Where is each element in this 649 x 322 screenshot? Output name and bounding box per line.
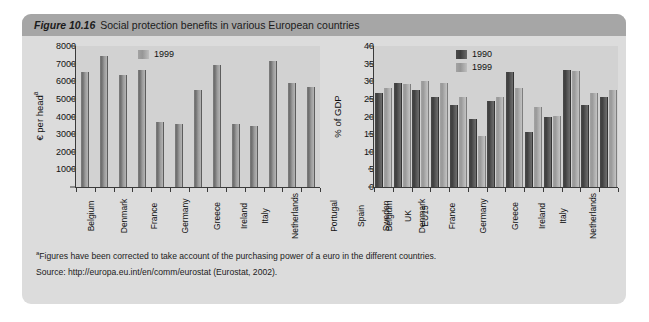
x-axis-label-text: Netherlands [290,193,300,239]
bar-ireland-1990 [469,119,477,187]
y-axis-tick-mark [70,151,75,152]
y-axis-label-left: € per heada [32,46,46,187]
x-axis-label-greece: Greece [501,193,529,243]
legend-swatch-icon [456,63,467,72]
legend-swatch-icon [138,50,149,59]
figure-card: Figure 10.16 Social protection benefits … [22,14,626,304]
footnotes: aFigures have been corrected to take acc… [36,250,616,277]
y-axis-tick-mark [70,46,75,47]
bar-spain-1999 [250,126,258,187]
y-axis-tick-mark [70,81,75,82]
bar-eu15-1999 [609,90,617,187]
x-axis-tick-mark [189,188,190,192]
y-axis-tick-mark [368,81,373,82]
legend-left: 1999 [138,49,174,62]
x-axis-label-text: Germany [478,199,488,234]
y-axis-tick-mark [70,116,75,117]
x-axis-tick-mark [449,188,450,192]
bars-area-right [374,46,618,187]
y-axis-label-right: % of GDP [330,46,344,187]
x-axis-tick-mark [170,188,171,192]
x-axis-label-france: France [141,193,167,243]
x-axis-label-text: Ireland [537,203,547,229]
y-axis-tick-mark [368,98,373,99]
x-axis-label-text: Greece [212,202,222,230]
x-axis-label-text: France [447,203,457,229]
x-axis-tick-mark [374,188,375,192]
bar-group [412,46,429,187]
y-axis-tick-mark [368,116,373,117]
x-axis-tick-mark [95,188,96,192]
figure-title-bar: Figure 10.16 Social protection benefits … [22,14,626,36]
legend-label: 1999 [154,49,174,59]
bar-eu15-1990 [600,97,608,187]
y-axis-tick-mark [368,187,373,188]
x-axis-tick-mark [562,188,563,192]
legend-item-1999: 1999 [456,62,492,72]
x-axis-label-text: Netherlands [588,193,598,239]
x-axis-tick-mark [505,188,506,192]
bar-belgium-1999 [384,88,392,187]
x-axis-tick-mark [580,188,581,192]
bar-group [506,46,523,187]
bar-germany-1990 [431,97,439,187]
x-axis-label-denmark: Denmark [107,193,141,243]
figure-number: Figure 10.16 [34,19,95,31]
bar-group [375,46,392,187]
bar-group [394,46,411,187]
x-axis-label-text: Italy [259,208,269,224]
legend-item-1990: 1990 [456,49,492,59]
bar-group [194,46,202,187]
x-axis-label-ireland: Ireland [529,193,555,243]
y-axis-tick-mark [368,63,373,64]
bar-ireland-1999 [478,136,486,187]
x-axis-tick-mark [618,188,619,192]
x-axis-tick-mark [320,188,321,192]
bar-ireland-1999 [175,124,183,187]
bar-denmark-1999 [403,84,411,187]
x-axis-tick-mark [132,188,133,192]
bar-germany-1999 [138,70,146,187]
bar-france-1999 [421,81,429,187]
bar-germany-1999 [440,83,448,187]
bar-sweden-1999 [269,61,277,187]
y-axis-tick-mark [368,46,373,47]
bar-portugal-1999 [232,124,240,187]
x-axis-tick-mark [245,188,246,192]
bar-netherlands-1999 [213,65,221,187]
bar-group [269,46,277,187]
x-axis-tick-mark [412,188,413,192]
x-axis-label-text: Italy [557,208,567,224]
legend-item-1999: 1999 [138,49,174,59]
x-axis-label-text: Denmark [417,199,427,233]
x-axis-tick-mark [226,188,227,192]
x-axis-tick-mark [76,188,77,192]
x-axis-tick-mark [393,188,394,192]
x-axis-tick-mark [207,188,208,192]
bar-sweden-1999 [572,71,580,187]
y-axis-tick-mark [368,169,373,170]
bar-greece-1999 [459,97,467,187]
x-axis-label-belgium: Belgium [76,193,107,243]
bar-netherlands-1999 [515,88,523,187]
bar-group [100,46,108,187]
x-axis-tick-mark [301,188,302,192]
x-axis-tick-mark [264,188,265,192]
bar-denmark-1999 [100,56,108,187]
bar-group [232,46,240,187]
x-axis-label-text: Denmark [119,199,129,233]
bar-group [581,46,598,187]
y-axis-label-left-superscript: a [33,92,40,96]
bar-portugal-1999 [534,107,542,187]
y-axis-label-right-text: % of GDP [332,95,343,137]
x-axis-label-text: Ireland [239,203,249,229]
bar-france-1990 [412,90,420,187]
bar-greece-1990 [450,105,458,187]
chart-euro-per-head: € per heada 1000200030004000500060007000… [30,36,326,244]
bar-uk-1990 [581,105,589,187]
bar-spain-1990 [544,117,552,188]
bar-group [156,46,164,187]
bar-greece-1999 [156,122,164,187]
x-axis-label-denmark: Denmark [405,193,439,243]
x-axis-labels-right: BelgiumDenmarkFranceGermanyGreeceIreland… [374,193,618,243]
